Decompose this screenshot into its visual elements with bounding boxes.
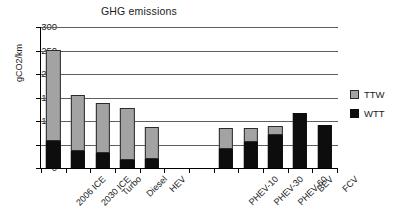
x-tick-label: Diesel	[145, 174, 170, 199]
chart-legend: TTW WTT	[350, 86, 385, 124]
table-row	[145, 127, 159, 168]
chart-title: GHG emissions	[0, 5, 338, 17]
bar-segment-ttw	[219, 128, 233, 149]
bar-slot	[238, 27, 263, 168]
bar-segment-ttw	[96, 103, 110, 153]
bar-segment-wtt	[219, 149, 233, 168]
bar-segment-wtt	[318, 125, 332, 168]
legend-item-wtt: WTT	[350, 105, 385, 121]
bar-slot	[312, 27, 337, 168]
x-tick-label: HEV	[167, 174, 187, 194]
bar-segment-ttw	[268, 126, 282, 135]
bar-series-layer	[41, 27, 337, 168]
ttw-swatch-icon	[350, 90, 359, 99]
legend-label-wtt: WTT	[364, 109, 385, 118]
bar-segment-ttw	[145, 127, 159, 159]
ghg-emissions-chart: GHG emissions gCO2/km 050100150200250300…	[0, 0, 398, 220]
bar-slot	[90, 27, 115, 168]
table-row	[318, 125, 332, 168]
bar-segment-wtt	[293, 113, 307, 168]
bar-slot	[189, 27, 214, 168]
legend-item-ttw: TTW	[350, 86, 385, 102]
bar-segment-wtt	[145, 159, 159, 168]
bar-slot	[41, 27, 66, 168]
table-row	[71, 95, 85, 168]
bar-segment-ttw	[120, 108, 134, 159]
bar-segment-wtt	[96, 153, 110, 168]
bar-slot	[288, 27, 313, 168]
bar-slot	[115, 27, 140, 168]
table-row	[96, 103, 110, 168]
table-row	[120, 108, 134, 168]
x-axis-labels: 2006 ICE2030 ICETurboDieselHEVPHEV-10PHE…	[0, 170, 398, 220]
bar-segment-wtt	[120, 160, 134, 168]
bar-segment-wtt	[71, 151, 85, 168]
bar-segment-wtt	[244, 142, 258, 168]
bar-segment-ttw	[244, 128, 258, 142]
table-row	[244, 128, 258, 168]
bar-segment-ttw	[46, 50, 60, 141]
table-row	[219, 128, 233, 168]
table-row	[268, 126, 282, 168]
table-row	[293, 113, 307, 168]
bar-slot	[164, 27, 189, 168]
bar-slot	[140, 27, 165, 168]
bar-slot	[263, 27, 288, 168]
bar-slot	[214, 27, 239, 168]
legend-label-ttw: TTW	[364, 90, 385, 99]
bar-segment-wtt	[46, 141, 60, 168]
x-tick-label: FCV	[340, 174, 360, 194]
bar-slot	[66, 27, 91, 168]
bar-segment-ttw	[71, 95, 85, 150]
table-row	[46, 50, 60, 168]
bar-segment-wtt	[268, 135, 282, 168]
wtt-swatch-icon	[350, 109, 359, 118]
